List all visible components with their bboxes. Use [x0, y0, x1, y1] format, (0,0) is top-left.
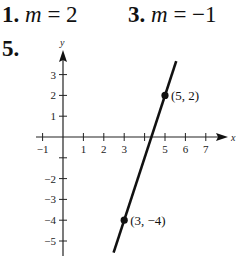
data-point-icon	[121, 217, 128, 224]
x-tick-label: 2	[101, 143, 107, 155]
x-tick-label: 5	[162, 143, 168, 155]
point-label: (3, −4)	[130, 213, 166, 228]
x-tick-label: 7	[203, 143, 209, 155]
x-tick-label: 3	[121, 143, 127, 155]
point-label: (5, 2)	[171, 88, 199, 103]
y-tick-label: 2	[51, 89, 57, 101]
y-tick-label: 3	[51, 69, 57, 81]
y-tick-label: −2	[44, 173, 56, 185]
line-graph: xy −1123567321−2−3−4−5 (5, 2)(3, −4)	[0, 0, 242, 258]
x-axis-label: x	[230, 132, 236, 143]
y-tick-label: −5	[44, 235, 56, 247]
y-tick-label: −4	[44, 214, 56, 226]
plot-line: (5, 2)(3, −4)	[114, 61, 200, 253]
y-tick-label: −3	[44, 193, 56, 205]
y-tick-label: 1	[51, 110, 57, 122]
data-point-icon	[161, 92, 168, 99]
y-axis-label: y	[59, 37, 65, 48]
x-tick-label: 6	[183, 143, 189, 155]
x-tick-label: 1	[81, 143, 87, 155]
x-tick-label: −1	[37, 143, 49, 155]
